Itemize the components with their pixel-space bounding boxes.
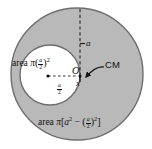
figure-container: area π(a2)2 area π[a2 − (a2)2] CM a a2 O… bbox=[0, 0, 152, 149]
label-area-big-close-bracket: ] bbox=[97, 116, 100, 127]
label-offset-a-over-2: a2 bbox=[57, 83, 62, 95]
label-area-small-exponent: 2 bbox=[47, 56, 50, 63]
label-radius-a: a bbox=[86, 39, 91, 48]
fraction-denominator: 2 bbox=[57, 90, 62, 96]
fraction-a-over-2-offset: a2 bbox=[57, 83, 62, 95]
hole-center-dot bbox=[46, 74, 49, 77]
label-area-shaded-region: area π[a2 − (a2)2] bbox=[38, 117, 100, 130]
label-center-of-mass: CM bbox=[105, 60, 120, 70]
label-area-small-prefix: area bbox=[12, 58, 28, 68]
label-area-big-prefix: area bbox=[38, 117, 54, 127]
label-area-small-circle: area π(a2)2 bbox=[12, 58, 50, 71]
label-cm-point-x: x bbox=[76, 79, 80, 88]
label-origin-o: O bbox=[72, 66, 79, 76]
hole-circle-white bbox=[20, 45, 80, 105]
